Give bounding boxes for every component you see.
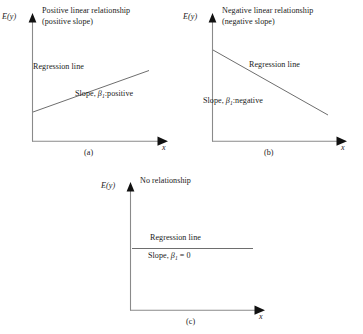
slope-prefix-c: Slope,: [148, 251, 171, 260]
panel-c-title-line1: No relationship: [140, 176, 191, 187]
slope-subscript-a: 1: [102, 93, 105, 99]
x-axis-label-a: x: [162, 143, 166, 154]
regression-line-label-a: Regression line: [33, 62, 84, 73]
panel-c: E(y) No relationship Regression line Slo…: [90, 170, 285, 334]
slope-value-a: :positive: [105, 89, 133, 98]
regression-line-label-b: Regression line: [249, 60, 300, 71]
y-axis-label-b: E(y): [183, 12, 197, 23]
slope-label-b: Slope, β1:negative: [203, 96, 263, 107]
slope-value-b: :negative: [233, 96, 263, 105]
panel-a-title-line1: Positive linear relationship: [42, 6, 130, 17]
slope-prefix-b: Slope,: [203, 96, 226, 105]
panel-caption-b: (b): [264, 148, 274, 159]
panel-a-title-line2: (positive slope): [42, 17, 93, 28]
regression-slope-figure: E(y) Positive linear relationship (posit…: [0, 0, 363, 334]
panel-b: E(y) Negative linear relationship (negat…: [181, 0, 363, 167]
y-axis-label-c: E(y): [101, 181, 115, 192]
panel-b-title-line1: Negative linear relationship: [222, 6, 313, 17]
slope-subscript-b: 1: [230, 100, 233, 106]
slope-value-c: = 0: [178, 251, 191, 260]
panel-b-title-line2: (negative slope): [222, 17, 275, 28]
slope-subscript-c: 1: [175, 255, 178, 261]
y-axis-arrowhead-c: [127, 182, 135, 192]
slope-prefix-a: Slope,: [75, 89, 98, 98]
x-axis-label-b: x: [341, 143, 345, 154]
regression-line-label-c: Regression line: [150, 233, 201, 244]
y-axis-arrowhead-b: [209, 13, 217, 23]
x-axis-label-c: x: [259, 312, 263, 323]
slope-label-a: Slope, β1:positive: [75, 89, 133, 100]
panel-caption-a: (a): [84, 148, 93, 159]
y-axis-label-a: E(y): [2, 12, 16, 23]
y-axis-arrowhead-a: [29, 13, 37, 23]
panel-caption-c: (c): [186, 317, 195, 328]
slope-label-c: Slope, β1 = 0: [148, 251, 191, 262]
panel-a: E(y) Positive linear relationship (posit…: [0, 0, 182, 167]
